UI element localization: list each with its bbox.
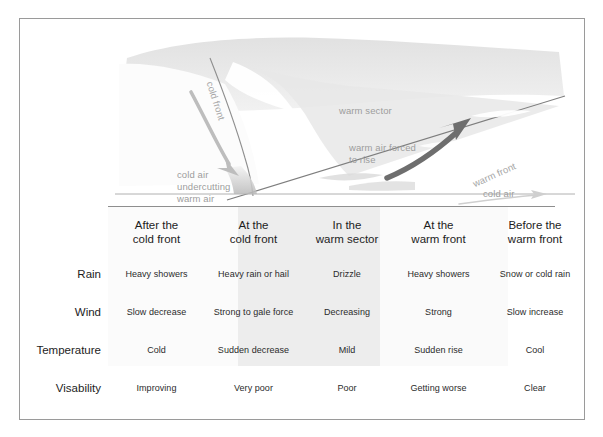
- header-at-warm-front: At the warm front: [392, 209, 485, 255]
- row-label-wind: Wind: [19, 293, 108, 331]
- warm-sector-label: warm sector: [339, 105, 392, 117]
- cell-wind-at-warm-front: Strong: [392, 293, 485, 331]
- table-row: Wind Slow decrease Strong to gale force …: [19, 293, 585, 331]
- row-label-rain: Rain: [19, 255, 108, 293]
- cell-rain-before-warm-front: Snow or cold rain: [485, 255, 585, 293]
- cell-rain-after-cold-front: Heavy showers: [108, 255, 205, 293]
- cold-air-undercut-line-2: undercutting: [177, 181, 231, 193]
- header-line-1: After the: [108, 218, 205, 232]
- table-row: Rain Heavy showers Heavy rain or hail Dr…: [19, 255, 585, 293]
- cell-temperature-before-warm-front: Cool: [485, 331, 585, 369]
- cell-temperature-in-warm-sector: Mild: [302, 331, 392, 369]
- header-line-2: warm front: [485, 232, 585, 246]
- warm-air-forced-to-rise-label: warm air forced to rise: [349, 142, 416, 166]
- cell-temperature-at-warm-front: Sudden rise: [392, 331, 485, 369]
- header-after-cold-front: After the cold front: [108, 209, 205, 255]
- table-top-divider: [108, 206, 555, 207]
- data-table: After the cold front At the cold front I…: [19, 209, 585, 407]
- header-line-2: warm sector: [302, 232, 392, 246]
- cell-visability-after-cold-front: Improving: [108, 369, 205, 407]
- header-line-2: cold front: [205, 232, 302, 246]
- header-in-warm-sector: In the warm sector: [302, 209, 392, 255]
- table-body: Rain Heavy showers Heavy rain or hail Dr…: [19, 255, 585, 407]
- cell-wind-before-warm-front: Slow increase: [485, 293, 585, 331]
- header-line-2: warm front: [392, 232, 485, 246]
- cell-wind-in-warm-sector: Decreasing: [302, 293, 392, 331]
- cloud-wisp-3: [319, 173, 383, 180]
- diagram-svg: [19, 18, 585, 213]
- cell-visability-at-cold-front: Very poor: [205, 369, 302, 407]
- row-label-temperature: Temperature: [19, 331, 108, 369]
- cold-air-undercutting-label: cold air undercutting warm air: [177, 169, 231, 205]
- header-line-1: At the: [392, 218, 485, 232]
- cell-rain-in-warm-sector: Drizzle: [302, 255, 392, 293]
- cold-air-undercut-line-1: cold air: [177, 169, 231, 181]
- cell-wind-at-cold-front: Strong to gale force: [205, 293, 302, 331]
- warm-air-rise-line-2: to rise: [349, 154, 416, 166]
- weather-characteristics-table: After the cold front At the cold front I…: [19, 205, 585, 420]
- header-row: After the cold front At the cold front I…: [19, 209, 585, 255]
- header-line-1: In the: [302, 218, 392, 232]
- header-line-2: cold front: [108, 232, 205, 246]
- cell-wind-after-cold-front: Slow decrease: [108, 293, 205, 331]
- corner-cell: [19, 209, 108, 255]
- header-line-1: At the: [205, 218, 302, 232]
- cell-visability-in-warm-sector: Poor: [302, 369, 392, 407]
- cell-visability-before-warm-front: Clear: [485, 369, 585, 407]
- header-before-warm-front: Before the warm front: [485, 209, 585, 255]
- cold-air-undercut-line-3: warm air: [177, 193, 231, 205]
- cross-section-diagram: cold front warm sector warm air forced t…: [19, 18, 585, 213]
- table-head: After the cold front At the cold front I…: [19, 209, 585, 255]
- cell-visability-at-warm-front: Getting worse: [392, 369, 485, 407]
- table-row: Visability Improving Very poor Poor Gett…: [19, 369, 585, 407]
- cell-rain-at-warm-front: Heavy showers: [392, 255, 485, 293]
- cell-temperature-after-cold-front: Cold: [108, 331, 205, 369]
- header-line-1: Before the: [485, 218, 585, 232]
- warm-front-precipitation: [349, 181, 415, 191]
- header-at-cold-front: At the cold front: [205, 209, 302, 255]
- table-row: Temperature Cold Sudden decrease Mild Su…: [19, 331, 585, 369]
- cold-air-right-label: cold air: [483, 188, 514, 200]
- row-label-visability: Visability: [19, 369, 108, 407]
- weather-front-figure: cold front warm sector warm air forced t…: [0, 0, 603, 437]
- cell-rain-at-cold-front: Heavy rain or hail: [205, 255, 302, 293]
- warm-air-rise-line-1: warm air forced: [349, 142, 416, 154]
- cell-temperature-at-cold-front: Sudden decrease: [205, 331, 302, 369]
